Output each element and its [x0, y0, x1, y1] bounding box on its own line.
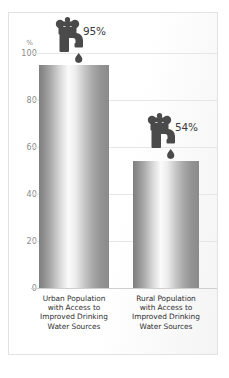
data-label-rural: 54% — [175, 121, 198, 133]
category-label-line: with Access to — [121, 303, 211, 312]
gridline-baseline-0 — [31, 288, 217, 289]
water-access-bar-chart: % 100 80 60 40 20 0 — [0, 0, 229, 378]
y-axis-unit-label: % — [26, 39, 33, 47]
category-label-line: Improved Drinking — [121, 312, 211, 321]
faucet-icon — [144, 113, 178, 163]
faucet-icon — [52, 17, 86, 67]
data-label-urban: 95% — [83, 25, 106, 37]
bar-urban-population — [39, 65, 109, 288]
chart-plot-panel: % 100 80 60 40 20 0 — [8, 12, 218, 355]
category-label-line: Water Sources — [121, 322, 211, 331]
category-label-line: Improved Drinking — [29, 312, 119, 321]
category-label-urban: Urban Population with Access to Improved… — [29, 294, 119, 331]
category-label-line: Water Sources — [29, 322, 119, 331]
bar-rural-population — [133, 161, 199, 288]
category-label-line: with Access to — [29, 303, 119, 312]
category-label-line: Urban Population — [29, 294, 119, 303]
category-label-line: Rural Population — [121, 294, 211, 303]
category-label-rural: Rural Population with Access to Improved… — [121, 294, 211, 331]
